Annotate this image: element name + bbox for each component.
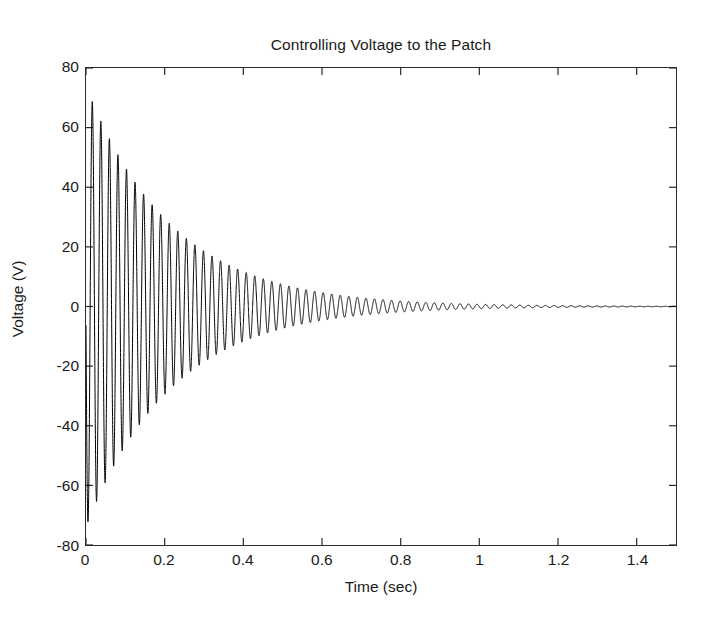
y-tick-label: -20 — [57, 358, 79, 374]
x-tick-label: 0 — [81, 552, 90, 568]
x-tick-label: 0.2 — [153, 552, 175, 568]
x-axis-tick-labels: 00.20.40.60.811.21.4 — [85, 552, 677, 574]
y-axis-label: Voltage (V) — [9, 219, 27, 379]
x-tick-label: 0.8 — [390, 552, 412, 568]
plot-area — [85, 67, 677, 546]
y-tick-label: -60 — [57, 478, 79, 494]
chart-title: Controlling Voltage to the Patch — [85, 36, 677, 54]
x-axis-label: Time (sec) — [85, 578, 677, 596]
y-tick-label: -40 — [57, 418, 79, 434]
y-tick-label: 20 — [62, 239, 79, 255]
x-tick-label: 1 — [475, 552, 484, 568]
y-tick-label: 0 — [70, 299, 79, 315]
x-tick-label: 0.4 — [232, 552, 254, 568]
y-tick-label: 40 — [62, 179, 79, 195]
x-tick-label: 1.2 — [548, 552, 570, 568]
plot-svg — [86, 68, 676, 545]
x-tick-label: 0.6 — [311, 552, 333, 568]
figure-canvas: Controlling Voltage to the Patch -80-60-… — [0, 0, 710, 621]
y-tick-label: -80 — [57, 538, 79, 554]
y-tick-label: 60 — [62, 119, 79, 135]
x-tick-label: 1.4 — [627, 552, 649, 568]
y-tick-label: 80 — [62, 59, 79, 75]
y-axis-tick-labels: -80-60-40-20020406080 — [30, 67, 79, 546]
data-series-line — [86, 102, 676, 522]
